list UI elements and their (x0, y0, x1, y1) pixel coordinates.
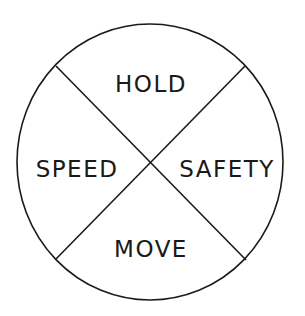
quadrant-label-top: HOLD (115, 71, 187, 97)
quadrant-label-left: SPEED (36, 156, 119, 182)
quadrant-label-right: SAFETY (179, 156, 275, 182)
quadrant-label-bottom: MOVE (114, 236, 188, 262)
quadrant-circle-diagram: HOLD SPEED SAFETY MOVE (0, 0, 305, 316)
